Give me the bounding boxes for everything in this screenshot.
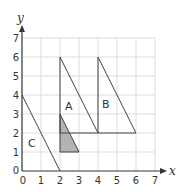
x-axis-arrow-icon bbox=[160, 168, 167, 174]
x-tick: 7 bbox=[152, 175, 158, 186]
shape-label-c: C bbox=[28, 137, 36, 150]
y-tick: 6 bbox=[13, 52, 19, 63]
coordinate-grid-diagram: x y 0 1 2 3 4 5 6 7 0 1 2 3 4 5 6 7 A B … bbox=[0, 0, 177, 192]
y-tick: 2 bbox=[13, 128, 19, 139]
y-tick: 3 bbox=[13, 109, 19, 120]
axes bbox=[22, 30, 162, 171]
y-tick-labels: 0 1 2 3 4 5 6 7 bbox=[13, 33, 19, 176]
x-tick: 4 bbox=[95, 175, 101, 186]
shape-label-a: A bbox=[65, 100, 73, 113]
shape-label-b: B bbox=[102, 98, 110, 111]
x-tick: 6 bbox=[133, 175, 139, 186]
y-tick: 0 bbox=[13, 165, 19, 176]
x-tick: 1 bbox=[38, 175, 44, 186]
x-tick: 5 bbox=[114, 175, 120, 186]
y-tick: 4 bbox=[13, 90, 19, 101]
grid bbox=[22, 38, 155, 171]
y-axis-label: y bbox=[16, 11, 24, 25]
x-tick: 2 bbox=[57, 175, 63, 186]
y-tick: 1 bbox=[13, 147, 19, 158]
y-axis-arrow-icon bbox=[19, 25, 25, 32]
x-tick: 0 bbox=[20, 175, 26, 186]
y-tick: 5 bbox=[13, 71, 19, 82]
x-tick-labels: 0 1 2 3 4 5 6 7 bbox=[20, 175, 158, 186]
x-axis-label: x bbox=[169, 164, 176, 178]
y-tick: 7 bbox=[13, 33, 19, 44]
x-tick: 3 bbox=[76, 175, 82, 186]
